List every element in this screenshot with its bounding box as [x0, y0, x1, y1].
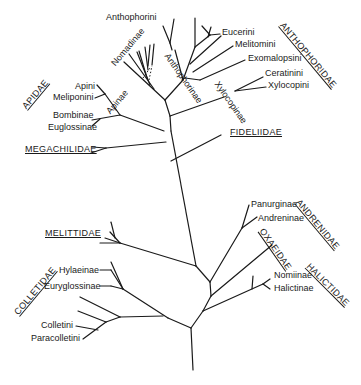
label-bombinae: Bombinae: [53, 111, 94, 120]
branch-to-apidae: [120, 115, 164, 131]
branch-nomadinae-6: [152, 44, 154, 65]
branch-spine-e: [170, 116, 171, 131]
branch-halictidae: [203, 284, 263, 311]
branch-colletidae-lower-2: [106, 317, 120, 322]
branch-antho-c3: [210, 34, 220, 35]
branch-anthophorini-stem: [170, 43, 172, 50]
label-exomalopsini: Exomalopsini: [248, 54, 302, 63]
branch-panurginae: [242, 205, 249, 228]
label-apini: Apini: [75, 82, 95, 91]
label-andreninae: Andreninae: [258, 214, 304, 223]
label-ceratinini: Ceratinini: [265, 69, 303, 78]
label-panurginae: Panurginae: [251, 200, 297, 209]
branch-colletidae-lower: [120, 316, 163, 317]
branch-spine-b: [210, 282, 211, 296]
branch-anthophorini: [163, 26, 170, 43]
label-eucerini: Eucerini: [222, 28, 255, 37]
branch-nomadinae-4: [145, 47, 148, 70]
label-xylocopini: Xylocopini: [268, 81, 309, 90]
branch-root-up: [191, 311, 203, 328]
branch-bombinae: [92, 115, 120, 120]
label-paracolletini: Paracolletini: [31, 334, 80, 343]
branch-anthophorini-2: [170, 19, 174, 43]
label-meliponini: Meliponini: [53, 93, 94, 102]
label-hylaeinae: Hylaeinae: [59, 266, 99, 275]
label-melitomini: Melitomini: [235, 40, 276, 49]
branch-nomiinae: [263, 279, 270, 284]
label-halictinae: Halictinae: [274, 284, 314, 293]
branch-oxaeidae: [211, 245, 272, 296]
branch-spine-f: [165, 100, 170, 116]
branch-fideliidae: [171, 135, 221, 161]
label-nomiinae: Nomiinae: [274, 271, 312, 280]
branch-halictidae-stub: [252, 276, 253, 289]
root-trunk: [191, 328, 193, 370]
label-family-fideliidae: FIDELIIDAE: [230, 128, 282, 137]
label-colletini: Colletini: [41, 321, 73, 330]
label-family-melittidae: MELITTIDAE: [45, 229, 101, 238]
branch-spine-c: [196, 266, 210, 282]
branch-colletidae-main: [123, 289, 168, 318]
label-anthophorini: Anthophorini: [106, 13, 157, 22]
label-family-megachilidae: MEGACHILIDAE: [25, 145, 97, 154]
branch-halictinae: [263, 284, 270, 289]
branch-root-to-colletidae: [168, 318, 191, 328]
branch-melittidae: [120, 243, 196, 266]
branch-hylaeinae-stub: [111, 262, 123, 289]
branch-colletidae-lower-3: [78, 311, 106, 322]
label-euryglossinae: Euryglossinae: [44, 282, 101, 291]
branch-spine-d: [171, 131, 196, 266]
branch-colletini: [76, 326, 98, 330]
branch-meliponini: [95, 94, 105, 98]
label-euglossinae: Euglossinae: [48, 123, 97, 132]
branch-apini: [97, 85, 105, 94]
branch-megachilidae: [106, 142, 166, 148]
branch-paracolletini: [83, 322, 106, 339]
branch-nomadinae-5: [148, 45, 150, 66]
